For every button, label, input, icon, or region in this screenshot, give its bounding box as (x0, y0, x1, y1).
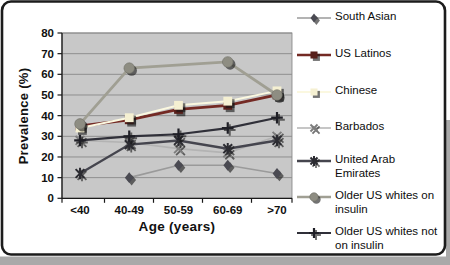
y-axis-title: Prevalence (%) (16, 31, 34, 201)
legend: South AsianUS LatinosChineseBarbadosUnit… (296, 0, 448, 258)
marker-chinese (310, 88, 319, 97)
y-tick-label: 10 (41, 172, 54, 184)
x-tick-label: >70 (267, 204, 287, 216)
legend-label: Older US whites noton insulin (335, 224, 437, 252)
legend-swatch-plus-icon (296, 224, 332, 242)
legend-label: Barbados (335, 119, 384, 133)
chart-figure: 01020304050607080<4040-4950-5960-69>70 P… (0, 0, 450, 265)
marker-older-us-whites-on-insulin (310, 193, 321, 204)
legend-label: US Latinos (335, 46, 391, 60)
x-tick-label: 60-69 (213, 204, 242, 216)
legend-label: Older US whites oninsulin (335, 188, 434, 216)
x-axis-title: Age (years) (92, 219, 262, 234)
legend-swatch-square-icon (296, 46, 332, 64)
x-tick-label: 50-59 (164, 204, 193, 216)
legend-label: Chinese (335, 83, 377, 97)
y-tick-label: 30 (41, 130, 54, 142)
legend-swatch-diamond-icon (296, 9, 332, 27)
y-tick-label: 40 (41, 110, 54, 122)
y-tick-label: 50 (41, 89, 54, 101)
y-tick-label: 70 (41, 48, 54, 60)
marker-us-latinos (310, 51, 319, 60)
x-tick-label: <40 (70, 204, 90, 216)
y-tick-label: 0 (48, 192, 54, 204)
x-tick-label: 40-49 (115, 204, 144, 216)
legend-label: United ArabEmirates (335, 152, 395, 180)
marker-south-asian (310, 13, 319, 24)
marker-older-us-whites-not-on-insulin (309, 228, 321, 240)
y-tick-label: 80 (41, 27, 54, 39)
marker-barbados (310, 124, 319, 133)
legend-swatch-star-icon (296, 152, 332, 170)
legend-swatch-circle-icon (296, 188, 332, 206)
marker-united-arab-emirates (310, 156, 319, 168)
y-tick-label: 20 (41, 151, 54, 163)
legend-label: South Asian (335, 9, 396, 23)
y-tick-label: 60 (41, 68, 54, 80)
legend-swatch-square-icon (296, 83, 332, 101)
legend-swatch-x-icon (296, 119, 332, 137)
